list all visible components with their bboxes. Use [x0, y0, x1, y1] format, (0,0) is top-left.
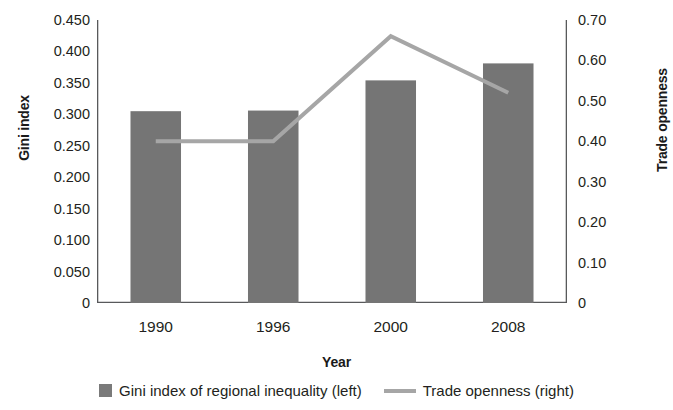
y-axis-left-tick-label: 0	[30, 296, 90, 311]
y-axis-left-ticks: 00.0500.1000.1500.2000.2500.3000.3500.40…	[20, 0, 90, 410]
x-axis-ticks: 1990199620002008	[97, 318, 567, 344]
y-axis-right-tick-label: 0.10	[578, 256, 638, 271]
plot-svg	[97, 20, 567, 303]
y-axis-left-tick-label: 0.400	[30, 44, 90, 59]
chart-legend: Gini index of regional inequality (left)…	[0, 382, 673, 399]
square-swatch-icon	[99, 384, 112, 397]
y-axis-right-tick-label: 0.20	[578, 215, 638, 230]
x-axis-tick-label: 1996	[215, 318, 333, 344]
y-axis-right-title: Trade openness	[654, 50, 670, 190]
x-axis-title: Year	[0, 354, 673, 370]
y-axis-left-tick-label: 0.150	[30, 202, 90, 217]
bar-2008	[483, 63, 534, 303]
chart-container: Gini index Trade openness Year 00.0500.1…	[0, 0, 673, 410]
y-axis-right-tick-label: 0	[578, 296, 638, 311]
line-trade-openness	[156, 36, 509, 141]
y-axis-right-ticks: 00.100.200.300.400.500.600.70	[578, 0, 638, 410]
line-swatch-icon	[384, 389, 416, 393]
plot-area	[97, 20, 567, 303]
y-axis-left-tick-label: 0.100	[30, 233, 90, 248]
legend-item-label: Trade openness (right)	[423, 382, 574, 399]
y-axis-right-tick-label: 0.70	[578, 13, 638, 28]
y-axis-right-tick-label: 0.50	[578, 94, 638, 109]
x-axis-tick-label: 1990	[97, 318, 215, 344]
legend-item: Trade openness (right)	[384, 382, 574, 399]
y-axis-left-tick-label: 0.450	[30, 13, 90, 28]
y-axis-left-tick-label: 0.250	[30, 139, 90, 154]
y-axis-left-tick-label: 0.200	[30, 170, 90, 185]
y-axis-left-tick-label: 0.300	[30, 107, 90, 122]
x-axis-tick-label: 2008	[450, 318, 568, 344]
y-axis-right-tick-label: 0.60	[578, 53, 638, 68]
bar-2000	[365, 80, 416, 303]
x-axis-tick-label: 2000	[332, 318, 450, 344]
y-axis-left-tick-label: 0.350	[30, 76, 90, 91]
y-axis-right-tick-label: 0.30	[578, 175, 638, 190]
y-axis-left-tick-label: 0.050	[30, 265, 90, 280]
legend-item-label: Gini index of regional inequality (left)	[119, 382, 362, 399]
legend-item: Gini index of regional inequality (left)	[99, 382, 362, 399]
y-axis-right-tick-label: 0.40	[578, 134, 638, 149]
